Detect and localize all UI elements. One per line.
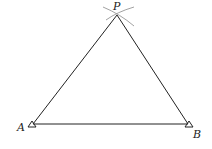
triangle-diagram: P A B [0, 0, 212, 149]
label-a: A [16, 121, 25, 134]
label-p: P [112, 0, 121, 13]
side-ap [33, 15, 117, 124]
label-b: B [192, 128, 201, 141]
triangle-sides [33, 15, 188, 124]
side-pb [117, 15, 188, 124]
